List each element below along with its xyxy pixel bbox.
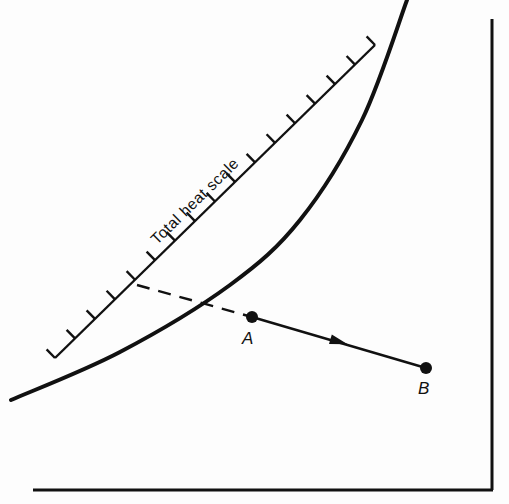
scale-tick	[267, 134, 275, 143]
scale-tick	[47, 349, 55, 358]
scale-tick	[87, 310, 95, 319]
total-heat-scale	[47, 36, 375, 358]
point-a-label: A	[242, 330, 253, 347]
scale-tick	[287, 115, 295, 124]
scale-tick	[107, 291, 115, 300]
arrowhead-icon	[329, 334, 348, 344]
scale-tick	[247, 154, 255, 163]
projection-dashed-line	[137, 285, 252, 317]
scale-tick	[327, 76, 335, 85]
scale-tick	[347, 56, 355, 65]
scale-tick	[147, 252, 155, 261]
point-b-label: B	[418, 380, 429, 397]
scale-tick	[127, 271, 135, 280]
scale-tick	[367, 36, 375, 45]
scale-tick	[67, 330, 75, 339]
point-b-marker	[420, 362, 432, 374]
diagram-canvas: Total heat scale A B	[0, 0, 509, 504]
point-a-marker	[246, 311, 258, 323]
scale-tick	[307, 95, 315, 104]
saturation-curve	[11, 0, 407, 400]
diagram-svg	[0, 0, 509, 504]
